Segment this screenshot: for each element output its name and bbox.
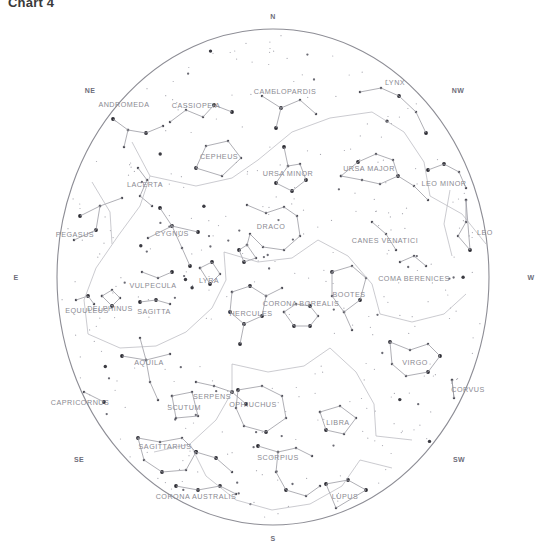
field-star	[426, 438, 427, 439]
field-star	[366, 408, 367, 409]
field-star	[130, 162, 131, 163]
field-star	[381, 136, 382, 137]
constellation-label-ophiuchus: OPHIUCHUS	[229, 400, 277, 409]
field-star	[268, 214, 269, 215]
field-star	[401, 432, 402, 433]
constellation-label-ursa-major: URSA MAJOR	[343, 164, 395, 173]
field-star	[383, 160, 384, 161]
field-star	[269, 41, 270, 42]
field-star	[388, 250, 389, 251]
field-star	[209, 245, 211, 247]
field-star	[323, 270, 324, 271]
field-star	[402, 430, 403, 431]
field-star	[306, 53, 308, 55]
field-star	[134, 171, 135, 172]
field-star	[231, 94, 232, 95]
field-star	[459, 227, 460, 228]
field-star	[317, 226, 318, 227]
field-star	[293, 81, 294, 82]
constellation-label-corvus: CORVUS	[451, 385, 485, 394]
field-star	[427, 301, 428, 302]
field-star	[288, 506, 289, 507]
field-star	[281, 435, 283, 437]
field-star	[193, 422, 194, 423]
field-star	[262, 474, 263, 475]
field-star	[264, 516, 265, 517]
field-star	[368, 316, 369, 317]
field-star	[128, 175, 129, 176]
field-star	[417, 403, 419, 405]
field-star	[146, 250, 148, 252]
field-star	[378, 225, 379, 226]
field-star	[453, 256, 454, 257]
field-star	[303, 233, 304, 234]
field-star	[150, 248, 151, 249]
constellation-line-bootes	[344, 312, 352, 330]
field-star	[231, 452, 232, 453]
field-star	[359, 159, 360, 160]
field-star	[247, 173, 248, 174]
field-star	[182, 481, 183, 482]
field-star	[157, 478, 158, 479]
field-star	[291, 483, 293, 485]
field-star	[317, 419, 318, 420]
field-star	[72, 198, 73, 199]
field-star	[258, 260, 259, 261]
constellation-label-capricornus: CAPRICORNUS	[51, 398, 110, 407]
field-star	[433, 375, 434, 376]
field-star	[413, 429, 414, 430]
field-star	[124, 282, 126, 284]
constellation-line-hercules	[266, 288, 282, 296]
field-star	[129, 456, 130, 457]
field-star	[212, 380, 213, 381]
cardinal-label-e: E	[13, 274, 18, 281]
field-star	[278, 402, 279, 403]
field-star	[277, 513, 278, 514]
field-star	[292, 238, 294, 240]
field-star	[99, 253, 100, 254]
field-star	[362, 431, 363, 432]
field-star	[208, 220, 209, 221]
field-star	[116, 380, 117, 381]
constellation-boundary-10	[380, 294, 466, 322]
field-star	[165, 95, 166, 96]
field-star	[303, 210, 304, 211]
field-star	[216, 118, 217, 119]
field-star	[74, 281, 75, 282]
field-star	[367, 123, 368, 124]
constellation-label-camelopardis: CAMELOPARDIS	[254, 87, 317, 96]
field-star	[234, 50, 235, 51]
field-star	[394, 393, 395, 394]
field-star	[313, 78, 315, 80]
field-star	[99, 318, 100, 319]
field-star	[276, 196, 277, 197]
field-star	[376, 314, 378, 316]
constellation-line-leo	[458, 200, 470, 250]
field-star	[343, 308, 344, 309]
field-star	[247, 171, 248, 172]
field-star	[429, 363, 430, 364]
field-star	[269, 146, 270, 147]
field-star	[431, 264, 432, 265]
field-star	[112, 237, 113, 238]
field-star	[174, 297, 176, 299]
field-star	[171, 173, 172, 174]
field-star	[424, 375, 425, 376]
field-star	[378, 482, 379, 483]
field-star	[385, 469, 386, 470]
field-star	[106, 413, 108, 415]
field-star	[96, 326, 97, 327]
field-star	[398, 398, 401, 401]
field-star	[419, 425, 420, 426]
field-star	[406, 208, 407, 209]
field-star	[308, 277, 309, 278]
field-star	[94, 341, 95, 342]
field-star	[437, 159, 438, 160]
constellation-label-cepheus: CEPHEUS	[200, 152, 238, 161]
field-star	[338, 188, 340, 190]
field-star	[251, 61, 252, 62]
field-star	[79, 208, 80, 209]
field-star	[402, 213, 403, 214]
field-star	[333, 308, 335, 310]
constellation-label-cygnus: CYGNUS	[155, 229, 189, 238]
